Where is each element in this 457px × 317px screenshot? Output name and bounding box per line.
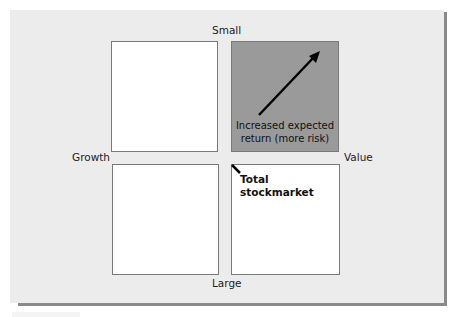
panel-shadow-bottom bbox=[18, 303, 447, 306]
panel-shadow-right bbox=[444, 12, 447, 306]
axis-label-value: Value bbox=[344, 151, 373, 163]
axis-label-large: Large bbox=[212, 277, 242, 289]
total-stockmarket-label: Total stockmarket bbox=[240, 173, 339, 199]
quadrant-small-growth bbox=[111, 41, 218, 152]
axis-label-small: Small bbox=[212, 24, 241, 36]
risk-annotation: Increased expected return (more risk) bbox=[232, 119, 338, 145]
quadrant-large-value: Total stockmarket bbox=[231, 164, 340, 275]
axis-label-growth: Growth bbox=[72, 151, 110, 163]
quadrant-large-growth bbox=[112, 164, 219, 275]
quadrant-small-value: Increased expected return (more risk) bbox=[231, 41, 339, 152]
caption-stub bbox=[12, 312, 80, 317]
